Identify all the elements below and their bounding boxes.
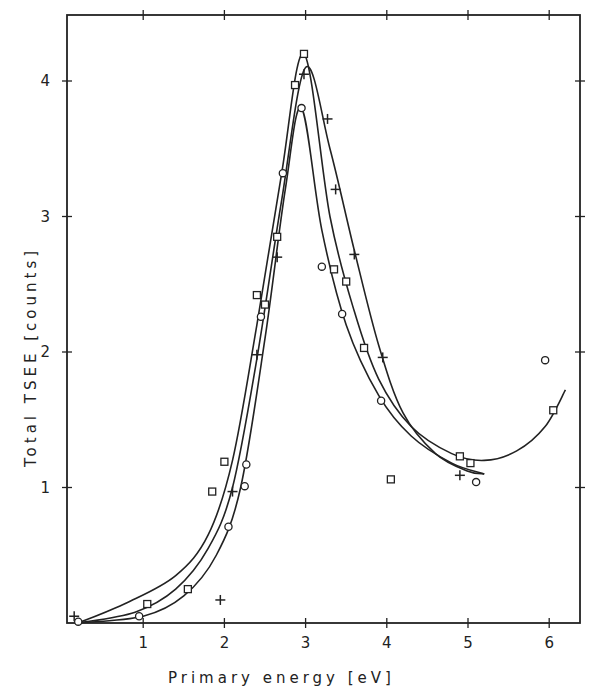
circle-marker: [378, 397, 385, 404]
axis-ticks: 1234561234: [40, 10, 585, 652]
circle-marker: [473, 478, 480, 485]
fit-curves: [78, 54, 565, 623]
circle-marker: [257, 313, 264, 320]
plus-marker: [378, 352, 388, 362]
circle-marker: [339, 310, 346, 317]
square-marker: [209, 488, 216, 495]
square-marker: [221, 458, 228, 465]
plot-border: [67, 15, 580, 623]
plus-marker: [252, 350, 262, 360]
square-marker: [387, 476, 394, 483]
plus-marker: [299, 69, 309, 79]
plot-frame: [67, 15, 580, 623]
x-tick-label: 2: [220, 634, 230, 652]
plus-marker: [349, 249, 359, 259]
square-marker: [144, 601, 151, 608]
square-marker: [184, 586, 191, 593]
y-tick-label: 1: [40, 479, 50, 497]
circle-marker: [136, 613, 143, 620]
square-marker: [467, 460, 474, 467]
y-tick-label: 2: [40, 343, 50, 361]
x-tick-label: 3: [301, 634, 311, 652]
circle-marker: [243, 461, 250, 468]
circle-marker: [542, 357, 549, 364]
square-marker: [274, 233, 281, 240]
data-markers: [69, 50, 557, 625]
x-tick-label: 6: [544, 634, 554, 652]
square-marker: [300, 50, 307, 57]
square-marker: [292, 82, 299, 89]
plus-marker: [215, 595, 225, 605]
circle-marker: [298, 105, 305, 112]
square-marker: [262, 301, 269, 308]
fit-curve-squares: [78, 54, 565, 623]
square-marker: [456, 453, 463, 460]
x-tick-label: 1: [138, 634, 148, 652]
fit-curve-plus: [78, 67, 484, 623]
x-axis-title: Primary energy [eV]: [168, 669, 395, 687]
circle-marker: [75, 618, 82, 625]
circle-marker: [318, 263, 325, 270]
x-tick-label: 4: [382, 634, 392, 652]
square-marker: [331, 266, 338, 273]
circle-marker: [241, 483, 248, 490]
plus-marker: [455, 470, 465, 480]
square-marker: [550, 407, 557, 414]
tsee-chart: 1234561234 Primary energy [eV] Total TSE…: [0, 0, 591, 695]
square-marker: [343, 278, 350, 285]
y-tick-label: 4: [40, 72, 50, 90]
fit-curve-circles: [78, 107, 484, 623]
circle-marker: [225, 523, 232, 530]
x-tick-label: 5: [463, 634, 473, 652]
y-axis-title: Total TSEE [counts]: [22, 247, 40, 468]
y-tick-label: 3: [40, 208, 50, 226]
circle-marker: [279, 170, 286, 177]
square-marker: [253, 292, 260, 299]
plus-marker: [228, 487, 238, 497]
square-marker: [361, 344, 368, 351]
